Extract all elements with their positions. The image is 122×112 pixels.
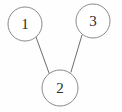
node-1-label: 1 (21, 16, 29, 32)
node-group: 1 2 3 (8, 4, 110, 106)
node-2[interactable]: 2 (42, 70, 78, 106)
edge-1-2 (36, 37, 49, 73)
graph-diagram: 1 2 3 (0, 0, 122, 112)
edge-group (36, 35, 82, 73)
node-2-label: 2 (56, 80, 64, 96)
edge-3-2 (71, 35, 82, 72)
diagram-canvas: 1 2 3 (0, 0, 122, 112)
node-3[interactable]: 3 (76, 4, 110, 38)
node-3-label: 3 (89, 13, 97, 29)
node-1[interactable]: 1 (8, 7, 42, 41)
